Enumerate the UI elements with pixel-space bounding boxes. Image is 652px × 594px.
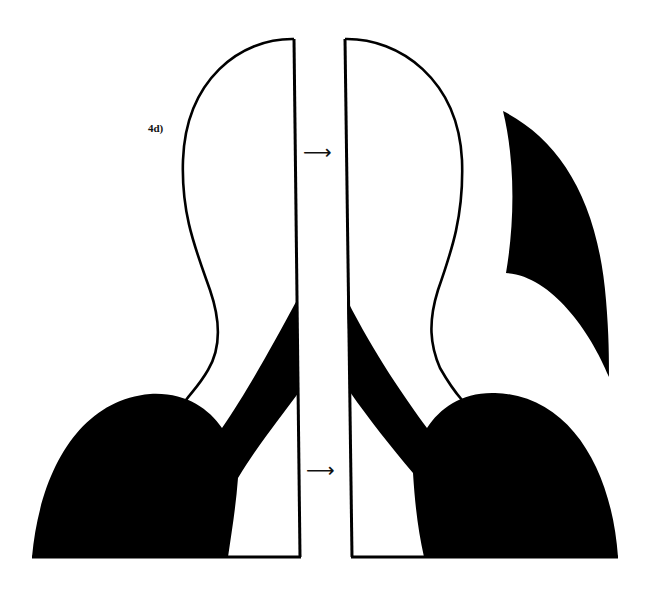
right-arrow-icon: ⟶ xyxy=(306,460,335,480)
left-half xyxy=(32,39,301,557)
figure-4d: 4d) ⟶ ⟶ xyxy=(0,0,652,594)
detached-black-fin xyxy=(503,111,609,377)
panel-label: 4d) xyxy=(148,122,163,134)
diagram-canvas xyxy=(0,0,652,594)
right-arrow-icon: ⟶ xyxy=(303,142,332,162)
left-black-shoulder xyxy=(32,300,299,557)
left-vertical-edge xyxy=(294,39,300,557)
right-vertical-edge xyxy=(345,39,352,557)
right-black-shoulder xyxy=(347,300,618,557)
